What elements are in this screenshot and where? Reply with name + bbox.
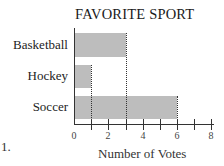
- x-tick-6: [177, 119, 178, 130]
- reference-line-3: [126, 33, 127, 124]
- x-tick-label-0: 0: [67, 130, 81, 141]
- x-tick-4: [143, 119, 144, 130]
- x-tick-5: [160, 119, 161, 130]
- x-tick-1: [91, 119, 92, 130]
- question-number: 1.: [1, 139, 11, 155]
- chart-title: FAVORITE SPORT: [75, 6, 194, 23]
- reference-line-1: [91, 65, 92, 124]
- x-tick-label-4: 4: [136, 130, 150, 141]
- x-tick-8: [211, 119, 212, 130]
- x-tick-label-8: 8: [204, 130, 218, 141]
- category-label-soccer: Soccer: [33, 99, 68, 115]
- x-axis-label: Number of Votes: [98, 146, 186, 162]
- x-tick-label-6: 6: [170, 130, 184, 141]
- x-tick-7: [194, 119, 195, 130]
- bar-hockey: [75, 65, 91, 88]
- y-axis: [74, 28, 75, 124]
- x-axis: [74, 124, 214, 125]
- x-tick-3: [126, 119, 127, 130]
- category-label-basketball: Basketball: [13, 37, 68, 53]
- category-label-hockey: Hockey: [28, 68, 68, 84]
- bar-basketball: [75, 33, 126, 57]
- x-tick-2: [108, 119, 109, 130]
- x-tick-label-2: 2: [101, 130, 115, 141]
